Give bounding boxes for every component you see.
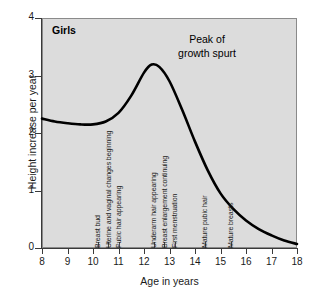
x-tick-10 (93, 249, 94, 254)
x-tick-label-18: 18 (287, 256, 307, 267)
x-tick-15 (221, 249, 222, 254)
peak-annotation: Peak of growth spurt (152, 32, 262, 60)
y-tick-4 (35, 18, 42, 19)
x-tick-label-16: 16 (236, 256, 256, 267)
x-tick-16 (246, 249, 247, 254)
x-tick-13 (170, 249, 171, 254)
x-tick-9 (68, 249, 69, 254)
x-tick-label-10: 10 (83, 256, 103, 267)
x-tick-12 (144, 249, 145, 254)
x-tick-label-15: 15 (211, 256, 231, 267)
y-tick-label-4: 4 (4, 12, 34, 22)
milestone-label: Uterine and vaginal changes beginning (105, 131, 112, 248)
y-axis-title: Height increase per year (26, 32, 38, 232)
x-tick-label-17: 17 (262, 256, 282, 267)
milestone-label: First menstruation (171, 194, 178, 248)
x-tick-17 (272, 249, 273, 254)
growth-spurt-chart: 43210 89101112131415161718 Girls Peak of… (0, 0, 312, 302)
x-tick-8 (42, 249, 43, 254)
peak-annotation-line1: Peak of (152, 32, 262, 46)
x-tick-label-11: 11 (109, 256, 129, 267)
milestone-label: Mature breasts (227, 203, 234, 248)
milestone-label: Breast bud (94, 215, 101, 248)
x-tick-label-8: 8 (32, 256, 52, 267)
peak-annotation-line2: growth spurt (152, 46, 262, 60)
chart-title: Girls (52, 24, 76, 36)
milestone-label: Underarm hair appearing (150, 172, 157, 248)
x-tick-label-13: 13 (160, 256, 180, 267)
x-tick-label-12: 12 (134, 256, 154, 267)
x-tick-label-14: 14 (185, 256, 205, 267)
x-tick-11 (119, 249, 120, 254)
milestone-label: Breast enlargement continuing (161, 156, 168, 248)
y-tick-label-0: 0 (4, 242, 34, 252)
x-tick-label-9: 9 (58, 256, 78, 267)
y-tick-0 (35, 248, 42, 249)
x-tick-14 (195, 249, 196, 254)
milestone-label: Mature pubic hair (201, 196, 208, 248)
x-tick-18 (297, 249, 298, 254)
milestone-label: Pubic hair appearing (115, 186, 122, 248)
x-axis-title: Age in years (42, 275, 297, 287)
